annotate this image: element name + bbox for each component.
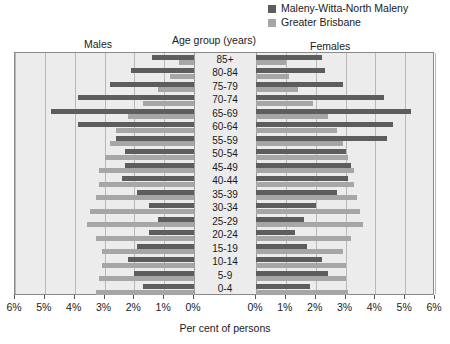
pyramid-row — [15, 107, 433, 121]
bar-right-maleny — [256, 190, 337, 195]
bar-right-brisbane — [256, 101, 313, 106]
bar-right-maleny — [256, 95, 384, 100]
pyramid-row — [15, 67, 433, 81]
bar-left-maleny — [110, 82, 194, 87]
plot-area: 85+80-8475-7970-7465-6960-6455-5950-5445… — [14, 52, 434, 295]
bar-right-maleny — [256, 122, 393, 127]
x-tick-label-right-4: 4% — [359, 301, 389, 313]
bar-left-brisbane — [105, 155, 195, 160]
bar-right-maleny — [256, 163, 351, 168]
x-tick-label-left-4: 2% — [118, 301, 148, 313]
bar-right-maleny — [256, 82, 343, 87]
chart-legend: Maleny-Witta-North Maleny Greater Brisba… — [268, 2, 448, 30]
bar-right-brisbane — [256, 276, 346, 281]
pyramid-row — [15, 94, 433, 108]
x-tick-mark — [374, 295, 375, 299]
bar-left-maleny — [116, 136, 194, 141]
x-tick-label-right-5: 5% — [389, 301, 419, 313]
x-tick-label-right-0: 0% — [240, 301, 270, 313]
pyramid-row — [15, 161, 433, 175]
bar-right-maleny — [256, 149, 346, 154]
bar-left-maleny — [137, 190, 194, 195]
pyramid-row — [15, 53, 433, 67]
x-tick-mark — [434, 295, 435, 299]
pyramid-row — [15, 269, 433, 283]
bar-left-brisbane — [90, 209, 194, 214]
x-tick-label-left-1: 5% — [29, 301, 59, 313]
bar-left-maleny — [131, 68, 194, 73]
bar-left-maleny — [137, 244, 194, 249]
x-tick-mark — [133, 295, 134, 299]
pyramid-row — [15, 148, 433, 162]
bar-left-maleny — [149, 230, 194, 235]
bar-right-maleny — [256, 271, 328, 276]
legend-swatch-brisbane — [268, 19, 276, 27]
x-tick-label-left-3: 3% — [89, 301, 119, 313]
bar-left-brisbane — [158, 87, 194, 92]
x-tick-mark — [315, 295, 316, 299]
bar-right-brisbane — [256, 168, 354, 173]
bar-right-maleny — [256, 217, 304, 222]
bar-left-brisbane — [99, 168, 194, 173]
pyramid-row — [15, 256, 433, 270]
bar-right-maleny — [256, 55, 322, 60]
pyramid-row — [15, 242, 433, 256]
x-tick-mark — [74, 295, 75, 299]
bar-left-maleny — [125, 149, 194, 154]
pyramid-row — [15, 202, 433, 216]
x-tick-mark — [345, 295, 346, 299]
legend-item-maleny: Maleny-Witta-North Maleny — [268, 2, 448, 15]
bar-right-brisbane — [256, 222, 363, 227]
population-pyramid-chart: Maleny-Witta-North Maleny Greater Brisba… — [0, 0, 450, 344]
x-tick-label-right-3: 3% — [330, 301, 360, 313]
bar-left-maleny — [122, 176, 194, 181]
bar-left-brisbane — [96, 236, 194, 241]
males-panel-heading: Males — [84, 38, 112, 50]
bar-left-maleny — [78, 122, 194, 127]
pyramid-row — [15, 215, 433, 229]
bar-left-brisbane — [102, 263, 194, 268]
x-tick-mark — [404, 295, 405, 299]
bar-left-brisbane — [128, 114, 194, 119]
bar-right-maleny — [256, 176, 348, 181]
bar-left-brisbane — [96, 290, 194, 295]
legend-item-brisbane: Greater Brisbane — [268, 16, 448, 29]
bar-left-maleny — [125, 163, 194, 168]
bar-left-maleny — [158, 217, 194, 222]
bar-left-maleny — [152, 55, 194, 60]
pyramid-row — [15, 121, 433, 135]
bar-right-brisbane — [256, 74, 289, 79]
bar-right-brisbane — [256, 236, 351, 241]
bar-left-maleny — [51, 109, 194, 114]
bar-right-brisbane — [256, 209, 360, 214]
bar-right-maleny — [256, 109, 411, 114]
females-panel-heading: Females — [310, 40, 350, 52]
pyramid-row — [15, 188, 433, 202]
bar-left-brisbane — [99, 182, 194, 187]
bar-right-brisbane — [256, 182, 354, 187]
bar-right-maleny — [256, 68, 325, 73]
bar-left-brisbane — [143, 101, 194, 106]
legend-label-maleny: Maleny-Witta-North Maleny — [281, 3, 408, 14]
bar-left-maleny — [128, 257, 194, 262]
bar-right-brisbane — [256, 195, 357, 200]
x-tick-mark — [255, 295, 256, 299]
x-tick-mark — [163, 295, 164, 299]
bar-right-maleny — [256, 244, 307, 249]
pyramid-row — [15, 175, 433, 189]
legend-swatch-maleny — [268, 5, 276, 13]
bar-left-maleny — [143, 284, 194, 289]
x-tick-label-left-0: 6% — [0, 301, 29, 313]
bar-right-maleny — [256, 136, 387, 141]
x-tick-mark — [44, 295, 45, 299]
x-tick-label-left-6: 0% — [178, 301, 208, 313]
bar-right-brisbane — [256, 114, 328, 119]
pyramid-row — [15, 229, 433, 243]
x-tick-label-right-6: 6% — [419, 301, 449, 313]
bar-left-brisbane — [116, 128, 194, 133]
bar-right-maleny — [256, 203, 316, 208]
x-tick-mark — [193, 295, 194, 299]
bar-right-brisbane — [256, 249, 343, 254]
x-tick-label-left-2: 4% — [59, 301, 89, 313]
x-tick-label-right-2: 2% — [300, 301, 330, 313]
